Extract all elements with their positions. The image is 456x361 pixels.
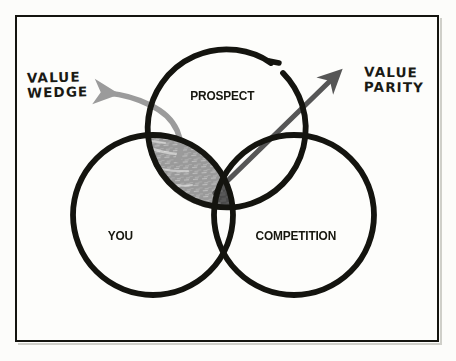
diagram-canvas: PROSPECT YOU COMPETITION VALUE WEDGE VAL… — [0, 0, 456, 361]
circle-label-you: YOU — [108, 228, 133, 243]
venn-svg — [0, 0, 456, 361]
callout-label-value-wedge: VALUE WEDGE — [27, 69, 89, 99]
circle-label-prospect: PROSPECT — [190, 88, 254, 103]
circle-label-competition: COMPETITION — [255, 228, 336, 243]
callout-label-value-parity: VALUE PARITY — [364, 65, 425, 95]
